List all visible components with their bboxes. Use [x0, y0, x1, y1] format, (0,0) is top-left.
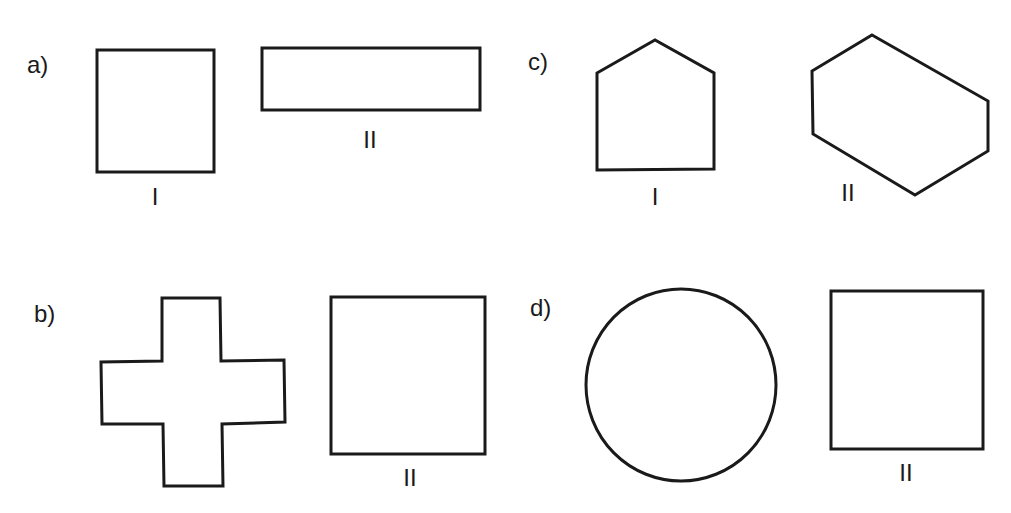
panel-c-figure-i-numeral: I	[652, 183, 659, 210]
panel-a-label: a)	[27, 51, 48, 78]
panel-c-figure-ii-hexagon	[812, 35, 988, 195]
panel-d: d) II	[530, 289, 983, 486]
panel-a-figure-ii-rectangle	[262, 48, 480, 110]
panel-c: c) I II	[528, 35, 988, 210]
panel-a-figure-i-square	[97, 50, 214, 172]
panel-c-figure-i-pentagon	[597, 40, 714, 170]
panel-b-label: b)	[34, 300, 55, 327]
panel-a-figure-ii-numeral: II	[363, 126, 376, 153]
panel-b-figure-ii-square	[331, 297, 485, 454]
panel-b-figure-ii-numeral: II	[403, 464, 416, 491]
panel-c-figure-ii-numeral: II	[841, 179, 854, 206]
panel-a-figure-i-numeral: I	[152, 183, 159, 210]
panel-b: b) II	[34, 297, 485, 491]
panel-d-label: d)	[530, 294, 551, 321]
panel-d-figure-ii-numeral: II	[899, 459, 912, 486]
panel-c-label: c)	[528, 48, 548, 75]
panel-d-figure-ii-square	[831, 291, 983, 449]
panel-a: a) I II	[27, 48, 480, 210]
panel-d-figure-circle	[586, 289, 776, 481]
panel-b-figure-cross	[101, 298, 285, 486]
shape-comparison-figure: a) I II b) II c) I II d) II	[0, 0, 1011, 513]
